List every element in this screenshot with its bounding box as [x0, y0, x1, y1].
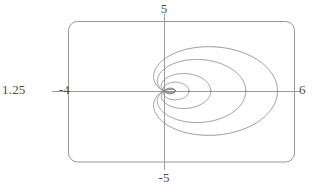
axis-label-x-min: -4: [42, 83, 70, 96]
plot-axes: [52, 14, 300, 170]
axis-label-scale: 1.25: [2, 83, 40, 96]
axis-label-y-max: 5: [152, 2, 176, 15]
axis-label-x-max: 6: [299, 83, 315, 96]
plot-figure: 5 -5 -4 6 1.25: [0, 0, 316, 191]
axis-label-y-min: -5: [152, 171, 176, 184]
